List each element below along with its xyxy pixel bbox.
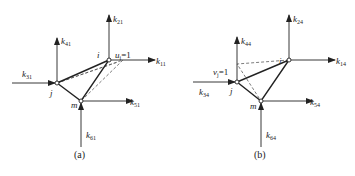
node-label-j: j	[49, 88, 53, 98]
figure-a: i j m ui=1 k11 k21 k31 k41 k51 k61 (a)	[12, 14, 166, 161]
displaced-edge	[57, 62, 118, 83]
node-i	[107, 58, 111, 62]
force-label-k51: k51	[130, 97, 140, 108]
node-m	[259, 99, 263, 103]
force-label-k34: k34	[199, 87, 209, 98]
caption-a: (a)	[74, 149, 85, 161]
triangle-element	[57, 60, 109, 101]
displaced-element	[57, 60, 123, 101]
displacement-label: ui=1	[115, 50, 131, 61]
force-label-k44: k44	[241, 36, 251, 47]
force-label-k61: k61	[86, 130, 96, 141]
caption-b: (b)	[254, 149, 266, 161]
displaced-element	[237, 60, 289, 101]
node-i	[287, 58, 291, 62]
force-label-k24: k24	[293, 14, 303, 25]
force-label-k21: k21	[113, 14, 123, 25]
node-label-j: j	[229, 86, 233, 96]
node-label-m: m	[250, 101, 257, 111]
stiffness-diagram: i j m ui=1 k11 k21 k31 k41 k51 k61 (a) i…	[0, 0, 355, 176]
figure-b: i j m vj=1 k14 k24 k34 k44 k54 k64 (b)	[193, 14, 346, 161]
force-label-k11: k11	[156, 56, 166, 67]
node-m	[79, 99, 83, 103]
force-label-k14: k14	[336, 56, 346, 67]
force-label-k41: k41	[61, 36, 71, 47]
node-j	[235, 80, 239, 84]
node-label-i: i	[97, 50, 100, 60]
force-label-k31: k31	[22, 69, 32, 80]
node-label-i: i	[279, 56, 282, 66]
force-label-k64: k64	[266, 130, 276, 141]
displacement-label: vj=1	[213, 67, 228, 78]
node-label-m: m	[71, 100, 78, 110]
force-label-k54: k54	[310, 97, 320, 108]
node-j	[55, 81, 59, 85]
triangle-element	[237, 60, 289, 101]
